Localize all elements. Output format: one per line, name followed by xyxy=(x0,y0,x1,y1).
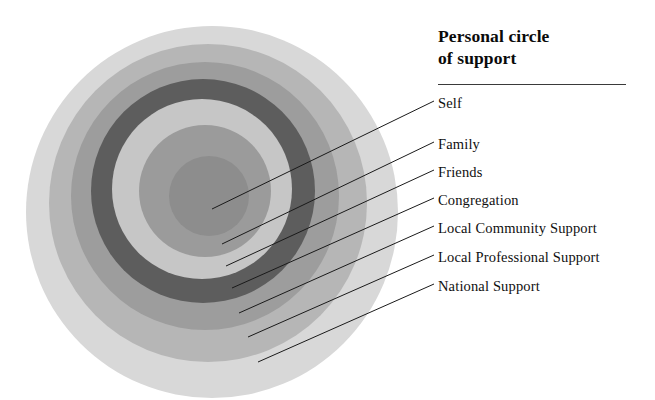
legend-label-family: Family xyxy=(438,136,480,153)
title-divider xyxy=(438,84,626,85)
legend-label-congregation: Congregation xyxy=(438,192,519,209)
legend-label-self: Self xyxy=(438,95,462,112)
legend-label-friends: Friends xyxy=(438,164,483,181)
personal-circle-of-support-figure: Personal circle of support SelfFamilyFri… xyxy=(0,0,655,400)
page-title: Personal circle of support xyxy=(438,26,638,69)
ring-self xyxy=(169,156,249,236)
legend-label-national-support: National Support xyxy=(438,278,540,295)
title-line-1: Personal circle xyxy=(438,26,549,46)
title-line-2: of support xyxy=(438,48,638,70)
legend-label-local-professional-support: Local Professional Support xyxy=(438,249,600,266)
legend-label-local-community-support: Local Community Support xyxy=(438,220,597,237)
